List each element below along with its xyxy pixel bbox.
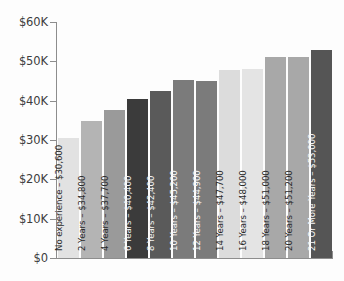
bar: 4 Years – $37,700 [104,110,124,258]
y-tick-mark [50,258,56,259]
bar-label: 10 Years – $45,200 [169,170,179,251]
bar: 14 Years – $47,700 [219,70,239,258]
y-tick-mark [50,140,56,141]
y-tick-label: $30K [19,133,48,147]
bar-label: 16 Years – $48,000 [238,170,248,251]
y-tick-mark [50,22,56,23]
y-tick-label: $40K [19,94,48,108]
y-tick-mark [50,101,56,102]
bar-label: 20 Years – $51,200 [284,170,294,251]
bar-group: No experience – $30,6002 Years – $34,800… [57,22,333,258]
bar-label-wrap: 10 Years – $45,200 [173,91,193,251]
y-tick-label: $10K [19,212,48,226]
y-tick-label: $50K [19,54,48,68]
bar: 6 Years – $40,400 [127,99,147,258]
bar-label-wrap: 14 Years – $47,700 [219,91,239,251]
bar: 18 Years – $51,000 [265,57,285,258]
bar: No experience – $30,600 [58,138,78,258]
bar-label: 6 Years – $40,400 [123,176,133,251]
bar-label: 2 Years – $34,800 [77,176,87,251]
y-tick-label: $60K [19,15,48,29]
y-tick-mark [50,219,56,220]
bar: 8 Years – $42,400 [150,91,170,258]
bar-label-wrap: 4 Years – $37,700 [104,91,124,251]
bar-chart: $60K$50K$40K$30K$20K$10K$0 No experience… [0,0,344,281]
y-tick-label: $20K [19,172,48,186]
bar-label-wrap: 20 Years – $51,200 [288,91,308,251]
bar: 12 Years – $44,900 [196,81,216,258]
bar: 20 Years – $51,200 [288,57,308,258]
bar-label-wrap: 8 Years – $42,400 [150,91,170,251]
plot-area: $60K$50K$40K$30K$20K$10K$0 No experience… [56,22,333,258]
bar-label: 18 Years – $51,000 [261,170,271,251]
y-tick-mark [50,179,56,180]
bar-label: 21 Or More Years – $53,000 [307,134,317,251]
bar-label-wrap: 6 Years – $40,400 [127,91,147,251]
bar-label-wrap: 2 Years – $34,800 [81,91,101,251]
bar-label: 14 Years – $47,700 [215,170,225,251]
bar-label-wrap: 18 Years – $51,000 [265,91,285,251]
x-axis-baseline [56,258,333,259]
bar: 21 Or More Years – $53,000 [311,50,331,258]
y-tick-mark [50,61,56,62]
bar-label: 12 Years – $44,900 [192,170,202,251]
bar: 16 Years – $48,000 [242,69,262,258]
y-tick-label: $0 [34,251,48,265]
bar-label: 4 Years – $37,700 [100,176,110,251]
bar-label-wrap: 12 Years – $44,900 [196,91,216,251]
bar: 10 Years – $45,200 [173,80,193,258]
bar-label-wrap: 16 Years – $48,000 [242,91,262,251]
bar-label: 8 Years – $42,400 [146,176,156,251]
bar: 2 Years – $34,800 [81,121,101,258]
bar-label-wrap: 21 Or More Years – $53,000 [311,91,331,251]
bar-label-wrap: No experience – $30,600 [58,91,78,251]
